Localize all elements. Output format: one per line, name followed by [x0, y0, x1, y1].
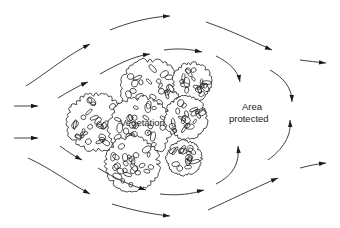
arrowhead-icon — [75, 155, 83, 162]
arrowhead-icon — [236, 146, 241, 153]
arrowhead-icon — [290, 95, 295, 102]
flow-arrow-eddy-lower-b — [268, 120, 292, 160]
arrowhead-icon — [197, 188, 205, 194]
area-protected-label-line1: Area — [242, 101, 263, 112]
flow-arrow-canopy-top-over — [164, 49, 202, 55]
crown-mid-right-crown — [164, 95, 208, 139]
flow-arrow-eddy-lower-a — [216, 146, 241, 184]
arrowhead-icon — [319, 60, 326, 65]
area-protected-label-line2: protected — [229, 113, 269, 124]
arrowhead-icon — [163, 213, 170, 218]
flow-arrow-top-left-rise — [26, 42, 91, 86]
arrowhead-icon — [319, 161, 326, 166]
arrowhead-icon — [271, 176, 279, 183]
flow-arrow-canopy-bottom-under — [160, 188, 204, 195]
arrowhead-icon — [81, 80, 89, 87]
flow-arrow-mid-lower-fall — [60, 146, 83, 162]
arrowhead-icon — [265, 45, 273, 52]
flow-arrow-top-arc — [110, 14, 170, 30]
crown-bottom-right-crown — [165, 140, 202, 177]
crown-top-right-crown — [172, 62, 212, 102]
arrowhead-icon — [31, 136, 38, 140]
flow-arrow-bottom-rise — [208, 176, 279, 210]
arrowhead-icon — [83, 42, 91, 49]
vegetation-label: Vegetation — [120, 117, 165, 128]
arrowhead-icon — [237, 75, 243, 83]
windbreak-flow-diagram: Vegetation Area protected — [0, 0, 340, 228]
flow-arrow-inlet-lower — [14, 136, 38, 140]
arrowhead-icon — [288, 120, 293, 127]
flow-arrow-eddy-upper-a — [216, 56, 242, 82]
flow-arrow-right-lower-exit — [300, 161, 326, 168]
flow-arrow-inlet-upper — [14, 104, 38, 108]
arrowhead-icon — [31, 104, 38, 108]
flow-arrow-right-upper-exit — [300, 60, 326, 65]
flow-arrow-eddy-upper-b — [270, 70, 294, 102]
flow-arrow-top-descend — [206, 22, 273, 52]
arrowhead-icon — [83, 189, 91, 196]
arrowhead-icon — [163, 14, 170, 19]
flow-arrow-bottom-arc — [112, 204, 170, 218]
flow-arrow-bottom-left-fall — [28, 158, 91, 196]
